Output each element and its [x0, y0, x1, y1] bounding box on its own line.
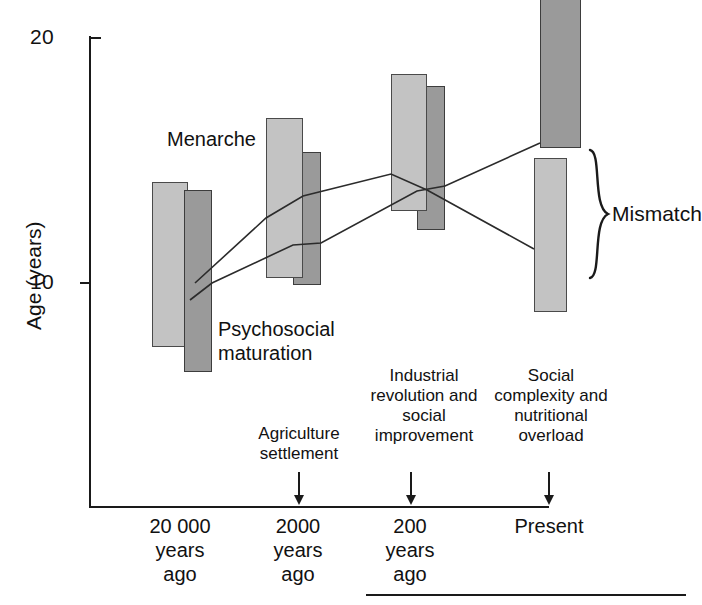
- bar-menarche-20000: [152, 182, 188, 347]
- menarche-label: Menarche: [167, 128, 256, 151]
- category-label-present: Present: [484, 514, 614, 538]
- arrow-social-complexity: [548, 472, 550, 496]
- cat-200-line1: 200: [358, 514, 462, 538]
- event-industrial-line2: revolution and: [354, 386, 494, 406]
- event-agriculture-line1: Agriculture: [234, 424, 364, 444]
- event-social-line2: complexity and: [480, 386, 622, 406]
- footer-rule: [366, 594, 686, 596]
- event-agriculture: Agriculture settlement: [234, 424, 364, 464]
- event-industrial-line3: social: [354, 406, 494, 426]
- event-industrial: Industrial revolution and social improve…: [354, 366, 494, 446]
- category-label-2000: 2000 years ago: [243, 514, 353, 586]
- bar-menarche-200: [391, 74, 427, 211]
- cat-20000-line3: ago: [120, 562, 240, 586]
- y-tick-20-mark: [90, 37, 101, 39]
- y-tick-label-20: 20: [30, 25, 54, 49]
- psychosocial-label-line2: maturation: [218, 342, 313, 365]
- arrow-agriculture: [298, 472, 300, 496]
- event-social-complexity: Social complexity and nutritional overlo…: [480, 366, 622, 446]
- cat-2000-line3: ago: [243, 562, 353, 586]
- cat-20000-line2: years: [120, 538, 240, 562]
- mismatch-label: Mismatch: [612, 202, 702, 226]
- x-axis-line: [89, 506, 549, 508]
- bar-psychosocial-present: [540, 0, 581, 148]
- category-label-200: 200 years ago: [358, 514, 462, 586]
- connector-menarche: [195, 174, 534, 283]
- event-social-line1: Social: [480, 366, 622, 386]
- bar-menarche-present: [534, 158, 567, 312]
- event-agriculture-line2: settlement: [234, 444, 364, 464]
- event-social-line4: overload: [480, 426, 622, 446]
- cat-present-line1: Present: [484, 514, 614, 538]
- event-industrial-line4: improvement: [354, 426, 494, 446]
- bar-menarche-2000: [266, 118, 303, 278]
- category-label-20000: 20 000 years ago: [120, 514, 240, 586]
- y-axis-line: [89, 36, 91, 508]
- event-industrial-line1: Industrial: [354, 366, 494, 386]
- bar-psychosocial-20000: [184, 190, 212, 372]
- y-tick-10-mark: [80, 282, 91, 284]
- arrow-industrial: [410, 472, 412, 496]
- cat-20000-line1: 20 000: [120, 514, 240, 538]
- psychosocial-label-line1: Psychosocial: [218, 318, 335, 341]
- cat-2000-line1: 2000: [243, 514, 353, 538]
- cat-200-line3: ago: [358, 562, 462, 586]
- connector-psychosocial: [190, 143, 540, 300]
- event-social-line3: nutritional: [480, 406, 622, 426]
- y-axis-title: Age (years): [22, 221, 46, 330]
- cat-200-line2: years: [358, 538, 462, 562]
- cat-2000-line2: years: [243, 538, 353, 562]
